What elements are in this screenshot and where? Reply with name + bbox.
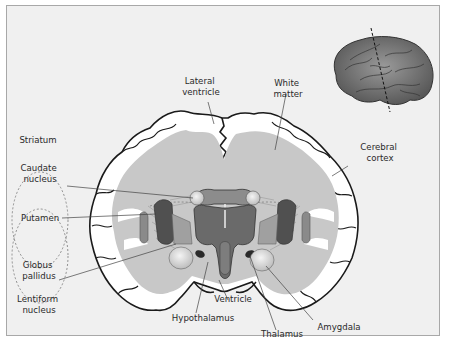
brain-coronal-diagram: Lateral ventricle White matter Cerebral … xyxy=(0,0,449,357)
label-white-matter: White matter xyxy=(273,78,303,99)
amygdala-left xyxy=(169,247,193,269)
label-putamen: Putamen xyxy=(21,213,59,223)
label-amygdala: Amygdala xyxy=(317,322,360,332)
label-lateral-ventricle: Lateral ventricle xyxy=(182,76,220,97)
label-globus-pallidus: Globus pallidus xyxy=(22,260,56,281)
label-hypothalamus: Hypothalamus xyxy=(172,313,235,323)
label-ventricle: Ventricle xyxy=(214,294,252,304)
label-lentiform-nucleus: Lentiform nucleus xyxy=(17,294,61,315)
label-caudate-nucleus: Caudate nucleus xyxy=(21,163,60,184)
label-thalamus: Thalamus xyxy=(260,329,303,339)
brain-side-view-icon xyxy=(334,28,433,112)
amygdala-right xyxy=(250,249,274,271)
lentiform-grouping xyxy=(12,209,68,303)
label-striatum: Striatum xyxy=(19,135,56,145)
label-cerebral-cortex: Cerebral cortex xyxy=(360,142,399,163)
